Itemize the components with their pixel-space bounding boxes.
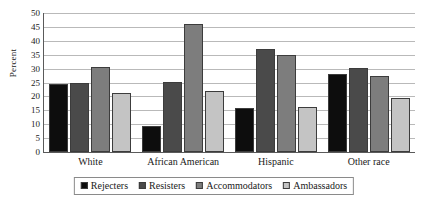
x-axis-category-label: African American — [137, 156, 230, 167]
bar-group — [322, 13, 415, 152]
plot-area — [44, 13, 415, 152]
bar — [112, 93, 131, 152]
bar — [205, 91, 224, 152]
bar — [277, 55, 296, 152]
bar-group — [230, 13, 323, 152]
bar — [370, 76, 389, 152]
y-axis-tick-label: 25 — [31, 78, 40, 87]
bar — [235, 108, 254, 152]
y-axis-title: Percent — [8, 33, 18, 93]
legend-item: Resisters — [139, 180, 185, 191]
bar — [163, 82, 182, 152]
legend-label: Accommodators — [206, 180, 272, 191]
x-axis-category-label: White — [44, 156, 137, 167]
y-axis-tick-label: 15 — [31, 106, 40, 115]
y-axis-tick-label: 0 — [36, 148, 41, 157]
gridline — [44, 152, 415, 153]
x-axis-category-labels: WhiteAfrican AmericanHispanicOther race — [44, 156, 415, 167]
bar — [70, 83, 89, 152]
y-axis-tick-label: 50 — [31, 9, 40, 18]
bar-group — [137, 13, 230, 152]
legend-item: Ambassadors — [283, 180, 347, 191]
legend-swatch-icon — [283, 182, 290, 189]
y-axis-tick-label: 30 — [31, 64, 40, 73]
bar — [142, 126, 161, 152]
bar — [298, 107, 317, 152]
bar-groups — [44, 13, 415, 152]
y-axis-tick-label: 35 — [31, 50, 40, 59]
legend-item: Accommodators — [196, 180, 272, 191]
y-axis-tick-label: 5 — [36, 134, 41, 143]
bar — [184, 24, 203, 152]
legend-label: Rejecters — [91, 180, 128, 191]
legend-swatch-icon — [196, 182, 203, 189]
y-axis-tick-label: 40 — [31, 36, 40, 45]
bar — [328, 74, 347, 152]
bar — [91, 67, 110, 152]
bar — [391, 98, 410, 152]
legend-label: Ambassadors — [293, 180, 347, 191]
bar-chart: Percent 05101520253035404550 WhiteAfrica… — [0, 0, 428, 201]
legend-swatch-icon — [139, 182, 146, 189]
y-axis-tick-label: 45 — [31, 22, 40, 31]
bar — [256, 49, 275, 152]
y-axis-tick-labels: 05101520253035404550 — [18, 8, 40, 154]
bar — [349, 68, 368, 152]
bar — [49, 84, 68, 152]
y-axis-tick-label: 20 — [31, 92, 40, 101]
y-axis-tick-label: 10 — [31, 120, 40, 129]
bar-group — [44, 13, 137, 152]
legend-item: Rejecters — [81, 180, 128, 191]
legend: RejectersResistersAccommodatorsAmbassado… — [74, 177, 354, 195]
legend-swatch-icon — [81, 182, 88, 189]
x-axis-category-label: Other race — [322, 156, 415, 167]
x-axis-category-label: Hispanic — [230, 156, 323, 167]
legend-label: Resisters — [149, 180, 185, 191]
